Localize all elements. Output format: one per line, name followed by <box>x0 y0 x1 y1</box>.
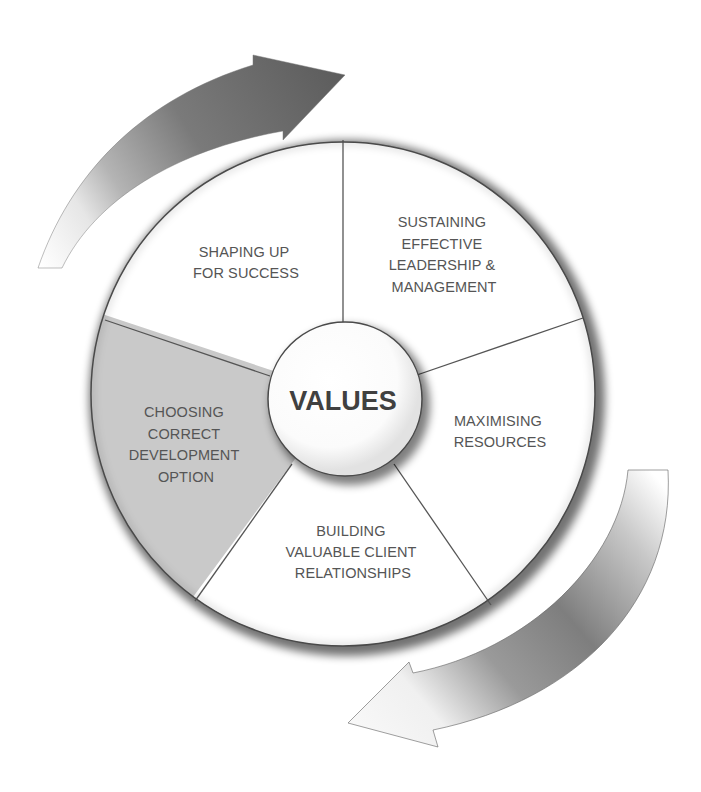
segment-label-line: LEADERSHIP & <box>389 257 496 273</box>
segment-label-line: SHAPING UP <box>199 244 289 260</box>
segment-label-line: OPTION <box>158 469 214 485</box>
segment-label-line: MAXIMISING <box>454 413 542 429</box>
segment-label-line: CORRECT <box>148 426 220 442</box>
segment-label-line: MANAGEMENT <box>392 279 497 295</box>
segment-label-line: DEVELOPMENT <box>129 447 240 463</box>
segment-label-line: VALUABLE CLIENT <box>286 544 417 560</box>
values-cycle-diagram: SHAPING UP FOR SUCCESS SUSTAINING EFFECT… <box>0 0 701 792</box>
segment-label-line: FOR SUCCESS <box>193 265 299 281</box>
segment-label-line: BUILDING <box>316 523 385 539</box>
segment-label-line: RELATIONSHIPS <box>295 565 411 581</box>
segment-label-line: RESOURCES <box>454 434 547 450</box>
segment-label-line: SUSTAINING <box>398 214 487 230</box>
hub-label: VALUES <box>289 386 397 416</box>
segment-label-line: EFFECTIVE <box>402 236 483 252</box>
segment-label-line: CHOOSING <box>144 404 224 420</box>
